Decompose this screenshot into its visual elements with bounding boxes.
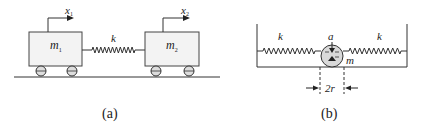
- diameter-2r-label: 2r: [325, 82, 336, 94]
- arrow-right-icon: [313, 86, 319, 91]
- displacement-x2-label: x2: [180, 4, 189, 17]
- spring-icon: [82, 47, 145, 53]
- caption-b: (b): [321, 106, 338, 122]
- spring-icon: [257, 48, 321, 54]
- displacement-arrow-x2: [163, 15, 190, 32]
- caption-a: (a): [102, 106, 118, 122]
- spring-left-k-label: k: [278, 30, 284, 42]
- wheel-icon: [184, 66, 194, 76]
- rolling-disk: [321, 42, 343, 67]
- pivot-a-label: a: [328, 30, 334, 42]
- mass-m-label: m: [346, 54, 354, 66]
- wheel-icon: [67, 66, 77, 76]
- arrow-left-icon: [345, 86, 351, 91]
- spring-right-k-label: k: [377, 30, 383, 42]
- panel-b: k k a m 2r (b): [257, 24, 407, 122]
- spring-k-label: k: [111, 32, 117, 44]
- wheel-icon: [151, 66, 161, 76]
- displacement-x1-label: x1: [64, 4, 73, 17]
- panel-a: m1 x1 k m2 x2 (a): [14, 4, 220, 122]
- diagram-canvas: m1 x1 k m2 x2 (a): [0, 0, 435, 129]
- displacement-arrow-x1: [48, 15, 74, 32]
- wheel-icon: [36, 66, 46, 76]
